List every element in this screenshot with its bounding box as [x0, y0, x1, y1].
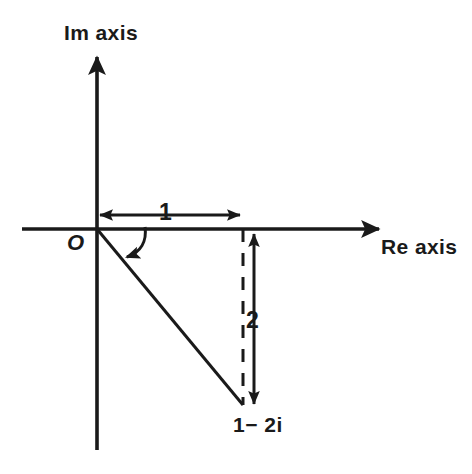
imaginary-axis-label: Im axis — [64, 22, 138, 43]
point-value-label: 1− 2i — [233, 414, 283, 435]
angle-arc-icon — [127, 227, 145, 257]
position-vector-line — [97, 229, 243, 405]
real-dimension-label: 1 — [159, 201, 172, 224]
real-axis-label: Re axis — [381, 236, 457, 257]
argand-diagram-figure: Im axis Re axis O 1 2 1− 2i — [0, 0, 472, 474]
origin-label: O — [67, 232, 84, 254]
imaginary-dimension-label: 2 — [246, 309, 259, 332]
